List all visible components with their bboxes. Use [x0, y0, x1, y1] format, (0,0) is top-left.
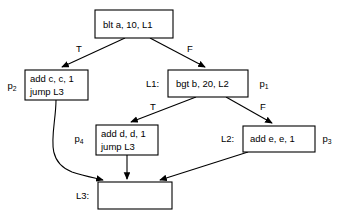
edge-adde-to-l3	[160, 152, 248, 180]
path-label-p2: p2	[7, 80, 16, 92]
node-bgt-line-0: bgt b, 20, L2	[176, 78, 229, 89]
node-entry[interactable]: blt a, 10, L1	[95, 10, 173, 38]
edges-group	[53, 38, 272, 180]
block-tag-l3: L3:	[76, 190, 89, 201]
edge-bgt-to-addd	[131, 97, 196, 122]
control-flow-graph: T F T F blt a, 10, L1 add c, c, 1 jump L…	[0, 0, 339, 218]
edge-label-entry-false: F	[187, 43, 193, 54]
node-addc-line-1: jump L3	[29, 86, 64, 97]
node-l3-box[interactable]	[98, 182, 172, 209]
edge-label-entry-true: T	[76, 43, 82, 54]
path-label-p3-sub: 3	[328, 137, 332, 144]
block-tag-l1: L1:	[146, 78, 159, 89]
diagram-canvas: T F T F blt a, 10, L1 add c, c, 1 jump L…	[0, 0, 339, 218]
node-entry-line-0: blt a, 10, L1	[103, 19, 153, 30]
node-l3[interactable]	[98, 182, 172, 209]
path-label-p4-sub: 4	[80, 137, 84, 144]
path-label-p1-sub: 1	[265, 82, 269, 89]
node-addc-line-0: add c, c, 1	[30, 73, 74, 84]
node-bgt[interactable]: bgt b, 20, L2	[168, 70, 248, 97]
path-label-p3: p3	[322, 133, 331, 145]
node-addd-line-1: jump L3	[100, 141, 135, 152]
path-label-p2-sub: 2	[13, 84, 17, 91]
edge-label-bgt-false: F	[260, 101, 266, 112]
block-tag-l2: L2:	[221, 133, 234, 144]
node-addd-line-0: add d, d, 1	[101, 128, 146, 139]
node-adde-line-0: add e, e, 1	[250, 133, 295, 144]
node-addd[interactable]: add d, d, 1 jump L3	[96, 125, 158, 155]
node-adde[interactable]: add e, e, 1	[243, 126, 315, 152]
edge-label-bgt-true: T	[150, 101, 156, 112]
edge-entry-to-addc	[62, 38, 125, 67]
node-addc[interactable]: add c, c, 1 jump L3	[25, 70, 88, 100]
edge-entry-to-bgt	[150, 38, 205, 67]
path-label-p4: p4	[74, 133, 83, 145]
path-label-p1: p1	[259, 78, 268, 90]
